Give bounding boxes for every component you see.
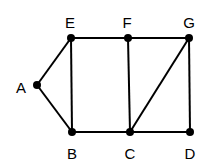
node-label-E: E [65,15,75,30]
node-label-D: D [185,146,196,161]
node-label-G: G [183,15,195,30]
node-label-F: F [122,15,131,30]
node-A [33,81,41,89]
edge-A-E [37,38,71,85]
node-C [126,128,134,136]
edge-G-D [189,38,190,132]
graph-diagram: AEFGBCD [0,0,204,166]
node-D [186,128,194,136]
node-G [185,34,193,42]
node-F [124,34,132,42]
node-B [68,128,76,136]
edge-A-B [37,85,72,132]
edge-G-C [130,38,189,132]
node-label-C: C [125,146,136,161]
graph-canvas [0,0,204,166]
node-label-A: A [16,80,26,95]
edge-F-C [128,38,130,132]
node-label-B: B [67,146,77,161]
node-E [67,34,75,42]
edge-E-B [71,38,72,132]
